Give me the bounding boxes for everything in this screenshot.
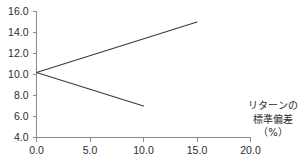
series-line-lower-branch bbox=[37, 72, 144, 106]
x-axis-tick-labels: 0.05.010.015.020.0 bbox=[29, 144, 261, 156]
axis-caption: リターンの 標準偏差 （%） bbox=[242, 99, 304, 140]
y-tick-label: 6.0 bbox=[14, 110, 29, 122]
y-axis-tick-marks bbox=[33, 12, 37, 138]
y-tick-label: 16.0 bbox=[8, 5, 29, 17]
series-lines bbox=[37, 22, 198, 106]
y-tick-label: 10.0 bbox=[8, 68, 29, 80]
axis-caption-line-1: リターンの bbox=[242, 99, 304, 113]
y-tick-label: 4.0 bbox=[14, 131, 29, 143]
x-tick-label: 0.0 bbox=[29, 144, 44, 156]
series-line-upper-branch bbox=[37, 22, 198, 72]
x-tick-label: 5.0 bbox=[83, 144, 98, 156]
y-tick-label: 14.0 bbox=[8, 26, 29, 38]
y-tick-label: 12.0 bbox=[8, 47, 29, 59]
x-tick-label: 20.0 bbox=[240, 144, 261, 156]
line-chart: 4.06.08.010.012.014.016.0 0.05.010.015.0… bbox=[0, 0, 307, 165]
y-axis-tick-labels: 4.06.08.010.012.014.016.0 bbox=[8, 5, 29, 143]
x-axis-tick-marks bbox=[37, 138, 251, 142]
chart-container: 4.06.08.010.012.014.016.0 0.05.010.015.0… bbox=[0, 0, 307, 165]
axis-caption-line-2: 標準偏差 bbox=[242, 113, 304, 127]
axis-caption-line-3: （%） bbox=[242, 126, 304, 140]
y-tick-label: 8.0 bbox=[14, 89, 29, 101]
x-tick-label: 10.0 bbox=[133, 144, 154, 156]
x-tick-label: 15.0 bbox=[187, 144, 208, 156]
